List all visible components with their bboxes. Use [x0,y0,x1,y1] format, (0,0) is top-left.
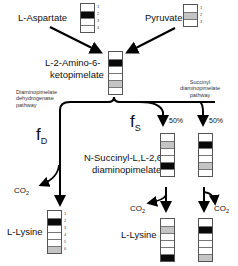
arrow-succinyl-right [200,102,203,124]
cell [48,239,61,246]
cell [161,226,174,233]
label-lysine-left: L-Lysine [7,227,43,237]
cell [199,155,212,162]
cell [161,254,174,261]
cell [109,52,122,59]
label-co2-right: CO2 [214,205,229,215]
cell [48,232,61,239]
strip-intermediate [108,51,123,95]
number: 4 [64,231,66,238]
cell [81,4,94,11]
label-amino-ketopimelate-2: ketopimelate [50,70,104,80]
cell [109,73,122,80]
cell [184,5,197,12]
cell [161,240,174,247]
branch-brace [60,97,215,110]
cell [199,141,212,148]
label-amino-ketopimelate-1: L-2-Amino-6- [45,58,100,68]
co2-sub: 2 [226,208,229,214]
label-dehydrogenase-pathway: Diaminopimelate dehydrogenase pathway [16,89,71,108]
number: 4 [97,24,99,31]
strip-succinyl-right [198,133,213,177]
cell [161,141,174,148]
cell [161,155,174,162]
cell [161,162,174,169]
arrow-co2-mid [149,195,166,203]
co2-text: CO [214,204,226,213]
arrow-co2-left [41,165,59,185]
cell [184,19,197,26]
arrow-co2-right [204,192,215,203]
cell [109,80,122,87]
cell [81,11,94,18]
cell [199,162,212,169]
co2-sub: 2 [142,208,145,214]
strip-aspartate-numbers: 1 2 3 4 [97,3,99,31]
label-succinyl-pathway: Succinyl diaminopimelate pathway [172,79,228,98]
cell [199,240,212,247]
flux-subscript: D [41,136,48,146]
cell [199,247,212,254]
cell [199,148,212,155]
strip-pyruvate-numbers: 1 2 3 [200,4,202,25]
number: 3 [200,18,202,25]
label-succinyl-dap-2: diaminopimelate [92,165,161,175]
strip-lysine-numbers: 1 2 3 4 5 6 [64,210,66,252]
label-co2-mid: CO2 [130,205,145,215]
strip-lysine-succinyl-left [160,218,175,262]
cell [161,134,174,141]
number: 1 [97,3,99,10]
split-right-percent: 50% [209,117,223,124]
cell [161,169,174,176]
flux-fs: fS [130,113,141,133]
cell [109,87,122,94]
flux-subscript: S [135,123,141,133]
number: 2 [64,217,66,224]
label-co2-left: CO2 [14,187,29,197]
strip-pyruvate [183,4,198,27]
cell [199,169,212,176]
number: 2 [97,10,99,17]
cell [199,226,212,233]
label-lysine-succinyl: L-Lysine [121,230,157,240]
number: 6 [64,245,66,252]
number: 3 [97,17,99,24]
co2-sub: 2 [26,190,29,196]
cell [109,66,122,73]
cell [48,246,61,253]
number: 3 [64,224,66,231]
cell [199,134,212,141]
cell [199,233,212,240]
co2-text: CO [14,186,26,195]
cell [161,219,174,226]
cell [161,233,174,240]
number: 5 [64,238,66,245]
cell [48,225,61,232]
cell [109,59,122,66]
co2-text: CO [130,204,142,213]
cell [81,25,94,32]
arrow-pyruvate [128,28,175,52]
cell [81,18,94,25]
strip-lysine-succinyl-right [198,218,213,262]
arrow-succinyl-left [140,102,163,124]
flux-fd: fD [36,126,47,146]
cell [48,218,61,225]
cell [184,12,197,19]
cell [199,254,212,261]
number: 1 [200,4,202,11]
strip-lysine-dehydrogenase [47,210,62,254]
label-aspartate: L-Aspartate [18,13,67,23]
cell [161,148,174,155]
strip-succinyl-left [160,133,175,177]
label-pyruvate: Pyruvate [145,13,183,23]
cell [161,247,174,254]
cell [48,211,61,218]
number: 1 [64,210,66,217]
split-left-percent: 50% [169,117,183,124]
strip-aspartate [80,3,95,33]
label-succinyl-dap-1: N-Succinyl-L,L-2,6- [84,153,165,163]
cell [199,219,212,226]
number: 2 [200,11,202,18]
